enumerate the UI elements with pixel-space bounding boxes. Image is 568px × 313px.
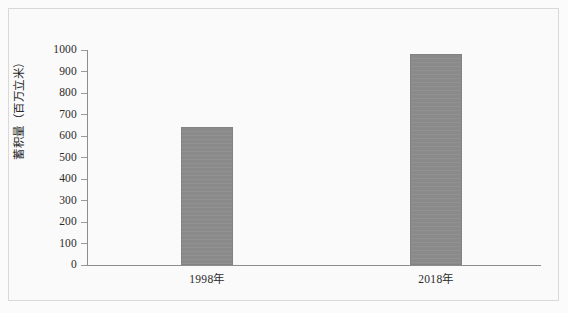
y-axis-tick <box>81 243 87 244</box>
chart-frame <box>8 8 559 301</box>
y-axis-tick <box>81 71 87 72</box>
y-axis-tick <box>81 222 87 223</box>
bar-texture <box>411 55 461 264</box>
y-axis-tick-label: 700 <box>33 109 77 121</box>
y-axis-tick-label: 600 <box>33 130 77 142</box>
bar <box>410 54 462 265</box>
y-axis-tick-label: 400 <box>33 173 77 185</box>
y-axis-tick <box>81 200 87 201</box>
y-axis-tick-label: 0 <box>33 259 77 271</box>
y-axis-tick <box>81 157 87 158</box>
y-axis-tick <box>81 93 87 94</box>
y-axis-tick <box>81 50 87 51</box>
y-axis-tick <box>81 265 87 266</box>
y-axis-title: 蓄积量（百万立米） <box>10 28 26 188</box>
y-axis-line <box>87 50 88 266</box>
x-axis-line <box>87 265 541 266</box>
y-axis-tick-label: 500 <box>33 152 77 164</box>
y-axis-tick-label: 800 <box>33 87 77 99</box>
bar-texture <box>182 128 232 264</box>
y-axis-tick <box>81 136 87 137</box>
y-axis-tick-label: 1000 <box>33 44 77 56</box>
bar <box>181 127 233 265</box>
y-axis-tick <box>81 179 87 180</box>
x-axis-tick-label: 1998年 <box>132 270 282 286</box>
y-axis-tick <box>81 114 87 115</box>
y-axis-tick-label: 200 <box>33 216 77 228</box>
x-axis-tick-label: 2018年 <box>361 270 511 286</box>
y-axis-tick-label: 300 <box>33 195 77 207</box>
y-axis-tick-label: 900 <box>33 66 77 78</box>
chart-page: 蓄积量（百万立米） 010020030040050060070080090010… <box>0 0 568 313</box>
y-axis-tick-label: 100 <box>33 238 77 250</box>
